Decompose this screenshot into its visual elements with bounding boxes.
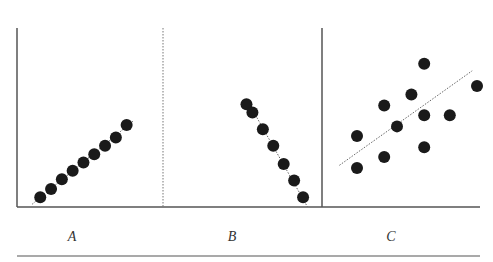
panel-a <box>32 119 133 204</box>
data-point-c-4 <box>378 100 390 112</box>
data-point-a-2 <box>45 183 57 195</box>
data-point-a-7 <box>99 140 111 152</box>
data-point-a-9 <box>121 119 133 131</box>
data-point-b-4 <box>267 140 279 152</box>
scatter-panels-figure: A B C <box>0 0 493 262</box>
data-point-c-3 <box>405 88 417 100</box>
data-point-b-7 <box>297 191 309 203</box>
panel-label-c: C <box>386 229 396 244</box>
data-point-c-10 <box>378 151 390 163</box>
data-point-a-1 <box>34 191 46 203</box>
data-point-c-11 <box>351 162 363 174</box>
data-point-c-5 <box>418 109 430 121</box>
data-point-b-6 <box>288 175 300 187</box>
data-point-b-5 <box>278 158 290 170</box>
panel-label-a: A <box>67 229 77 244</box>
data-point-b-2 <box>246 106 258 118</box>
data-point-c-6 <box>444 109 456 121</box>
data-point-a-4 <box>67 165 79 177</box>
data-point-b-3 <box>257 123 269 135</box>
data-point-c-9 <box>418 141 430 153</box>
panel-c <box>339 58 483 174</box>
data-point-a-8 <box>110 132 122 144</box>
panel-label-b: B <box>228 229 237 244</box>
data-point-c-1 <box>418 58 430 70</box>
data-point-c-2 <box>471 80 483 92</box>
data-point-c-7 <box>391 120 403 132</box>
data-point-a-6 <box>88 148 100 160</box>
data-point-a-5 <box>77 157 89 169</box>
data-point-a-3 <box>56 173 68 185</box>
panel-b <box>240 98 309 207</box>
data-point-c-8 <box>351 130 363 142</box>
